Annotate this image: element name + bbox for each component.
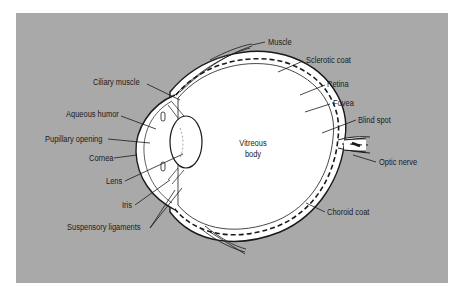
label-aqueous-humor: Aqueous humor	[66, 109, 119, 119]
iris-upper-shape	[161, 112, 165, 121]
label-vitreous-line1: Vitreous	[235, 138, 270, 149]
label-retina: Retina	[327, 79, 349, 89]
label-choroid-coat: Choroid coat	[327, 207, 369, 217]
lens-shape	[170, 116, 202, 168]
label-suspensory-ligaments: Suspensory ligaments	[67, 222, 141, 232]
label-ciliary-muscle: Ciliary muscle	[93, 77, 140, 87]
label-optic-nerve: Optic nerve	[379, 157, 417, 167]
label-fovea: Fovea	[333, 98, 354, 108]
label-vitreous-line2: body	[235, 149, 270, 160]
label-pupillary-opening: Pupillary opening	[45, 134, 102, 144]
cornea-shape	[136, 95, 175, 210]
label-blind-spot: Blind spot	[358, 115, 391, 125]
label-lens: Lens	[106, 176, 122, 186]
label-iris: Iris	[122, 200, 132, 210]
label-vitreous-body: Vitreous body	[235, 138, 270, 160]
eye-cross-section-drawing	[0, 0, 461, 297]
label-sclerotic-coat: Sclerotic coat	[306, 55, 351, 65]
label-muscle: Muscle	[268, 37, 292, 47]
label-cornea: Cornea	[89, 153, 114, 163]
